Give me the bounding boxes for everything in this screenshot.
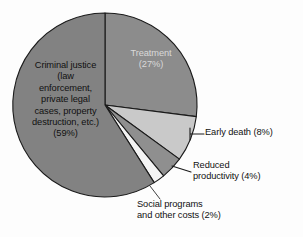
slice-label-early-death: Early death (8%) [205,127,301,138]
slice-label-treatment: Treatment (27%) [114,48,188,71]
pie-chart-figure: Criminal justice (law enforcement, priva… [0,0,303,237]
leader-line-reduced-productivity [172,166,191,172]
slice-label-reduced-productivity: Reduced productivity (4%) [193,160,303,183]
slice-label-social-programs: Social programs and other costs (2%) [137,199,297,222]
slice-label-criminal-justice: Criminal justice (law enforcement, priva… [14,60,117,140]
leader-line-social-programs [150,186,160,199]
